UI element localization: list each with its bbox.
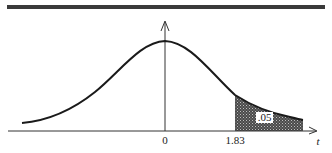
critical-value-label: 1.83 [225, 134, 245, 146]
tail-area-label: .05 [258, 111, 272, 123]
origin-label: 0 [162, 134, 168, 146]
t-distribution-figure: .05 0 1.83 t [0, 0, 332, 153]
top-rule [7, 5, 325, 9]
x-axis-variable-label: t [316, 135, 320, 147]
